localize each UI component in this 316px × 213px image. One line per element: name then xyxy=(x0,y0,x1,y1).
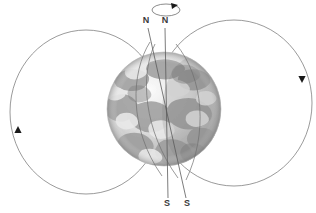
label-north-magnetic: N xyxy=(143,15,150,25)
label-south-magnetic: S xyxy=(184,198,190,208)
field-direction-arrow-left xyxy=(14,126,21,133)
diagram-canvas: N N S S xyxy=(0,0,316,213)
label-north-rotational: N xyxy=(162,15,169,25)
label-south-rotational: S xyxy=(164,198,170,208)
field-direction-arrow-right xyxy=(298,76,305,83)
magnetic-field-diagram: N N S S xyxy=(0,0,316,213)
